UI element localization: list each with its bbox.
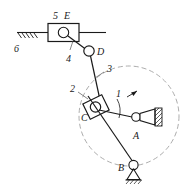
joint-d <box>84 46 94 56</box>
slider-block-e[interactable] <box>48 24 79 42</box>
label-point-c: C <box>81 112 88 123</box>
support-a-hatching <box>155 108 162 126</box>
label-point-e: E <box>63 10 70 21</box>
label-link-3: 3 <box>106 63 112 74</box>
rotation-arc <box>117 99 120 118</box>
support-b-body <box>127 169 140 180</box>
label-link-4: 4 <box>66 53 71 64</box>
fixed-pivot-a <box>132 108 162 126</box>
label-link-1: 1 <box>116 88 121 99</box>
fixed-pivot-b <box>126 160 142 184</box>
label-point-d: D <box>96 46 105 57</box>
label-ground-6: 6 <box>14 43 19 54</box>
mechanism-svg: 5 E 6 4 D 3 2 C 1 A B <box>0 0 193 189</box>
ground-hatch-left <box>18 33 38 38</box>
leader-link-2 <box>78 92 88 99</box>
label-link-5: 5 <box>53 10 58 21</box>
label-point-b: B <box>118 162 124 173</box>
support-b-hatching <box>126 180 142 184</box>
label-link-2: 2 <box>70 83 75 94</box>
label-point-a: A <box>132 130 140 141</box>
pin-e <box>58 27 68 37</box>
support-a-body <box>140 109 155 125</box>
rotation-arrow-head <box>131 91 137 96</box>
link-3 <box>91 56 105 100</box>
